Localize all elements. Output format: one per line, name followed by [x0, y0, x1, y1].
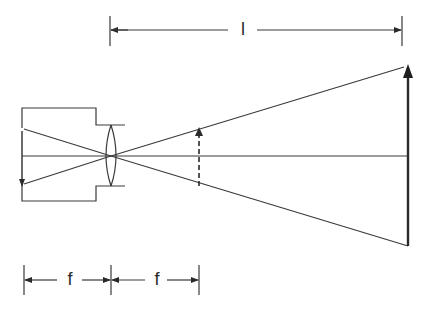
ray-film-top [24, 129, 111, 156]
object-arrow-head-icon [403, 64, 413, 78]
camera-body-top [22, 108, 125, 128]
camera-lens-diagram [0, 0, 427, 314]
distance-dimension [110, 16, 402, 46]
distance-label: l [234, 20, 252, 38]
camera-body [22, 108, 125, 201]
focal-length-label-right: f [149, 270, 165, 288]
focal-dimensions [24, 265, 199, 295]
camera-body-bottom [22, 186, 125, 201]
ray-upper [111, 67, 404, 156]
ray-film-bottom [24, 156, 111, 184]
ray-lower [111, 156, 408, 246]
focal-length-label-left: f [62, 270, 78, 288]
